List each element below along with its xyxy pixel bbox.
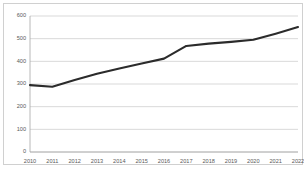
y-gridlines (30, 16, 298, 152)
x-tick-label: 2018 (202, 158, 214, 164)
x-tick-label: 2012 (68, 158, 80, 164)
x-tick-label: 2010 (24, 158, 36, 164)
series-line (30, 27, 298, 87)
x-tick-label: 2017 (180, 158, 192, 164)
y-tick-label: 100 (17, 126, 26, 132)
x-tick-label: 2013 (91, 158, 103, 164)
x-tick-label: 2020 (247, 158, 259, 164)
line-chart: 0100200300400500600 20102011201220132014… (4, 4, 304, 166)
y-tick-label: 600 (17, 12, 26, 18)
x-axis-tick-labels: 2010201120122013201420152016201720182019… (24, 158, 304, 164)
chart-plot-area: 0100200300400500600 20102011201220132014… (4, 4, 304, 166)
y-tick-label: 400 (17, 58, 26, 64)
x-tick-label: 2021 (269, 158, 281, 164)
y-tick-label: 0 (23, 148, 26, 154)
x-tick-label: 2011 (46, 158, 58, 164)
x-tick-label: 2014 (113, 158, 125, 164)
y-tick-label: 500 (17, 35, 26, 41)
chart-container: 0100200300400500600 20102011201220132014… (3, 3, 303, 165)
x-tick-label: 2016 (158, 158, 170, 164)
x-tick-label: 2015 (135, 158, 147, 164)
x-tick-label: 2022 (292, 158, 304, 164)
y-tick-label: 300 (17, 80, 26, 86)
y-tick-label: 200 (17, 103, 26, 109)
data-series-line (30, 27, 298, 87)
x-tick-label: 2019 (225, 158, 237, 164)
y-axis-tick-labels: 0100200300400500600 (17, 12, 26, 154)
